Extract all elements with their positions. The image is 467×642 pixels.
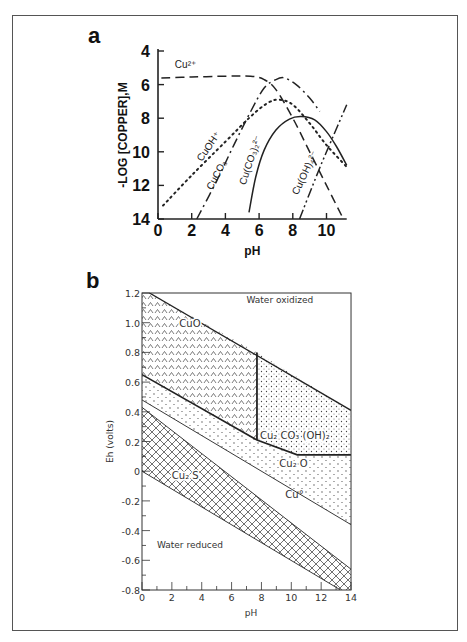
- y-tick-label: -0.8: [121, 585, 140, 596]
- y-tick-label: 0: [134, 466, 140, 477]
- y-tick-label: 0.6: [125, 377, 140, 388]
- region-label: Cu°: [285, 489, 303, 500]
- x-tick-label: 10: [285, 592, 297, 603]
- y-axis-label: Eh (volts): [105, 420, 115, 463]
- y-tick-label: 0.4: [125, 407, 140, 418]
- region-label: Cu₂ CO₃ (OH)₂: [260, 430, 330, 441]
- region-label: Water reduced: [157, 540, 223, 550]
- x-tick-label: 6: [229, 592, 235, 603]
- region-label: Cu₂ S: [172, 470, 199, 481]
- x-axis-label: pH: [245, 608, 257, 618]
- region-label: Cu₂ O: [279, 458, 308, 469]
- y-tick-label: 0.8: [125, 347, 140, 358]
- y-tick-label: -0.4: [121, 526, 140, 537]
- x-tick-label: 12: [315, 592, 327, 603]
- y-tick-label: 0.2: [125, 437, 140, 448]
- region-label: Water oxidized: [247, 295, 314, 305]
- region-label: CuO: [179, 318, 200, 329]
- y-tick-label: -0.2: [121, 496, 140, 507]
- chart-b-eh-ph-diagram: 1.21.00.80.60.40.20-0.2-0.4-0.6-0.802468…: [0, 0, 467, 642]
- y-tick-label: 1.0: [125, 318, 140, 329]
- x-tick-label: 8: [258, 592, 264, 603]
- x-tick-label: 14: [345, 592, 357, 603]
- y-tick-label: -0.6: [121, 555, 140, 566]
- x-tick-label: 0: [139, 592, 145, 603]
- y-tick-label: 1.2: [125, 288, 140, 299]
- x-tick-label: 2: [169, 592, 175, 603]
- x-tick-label: 4: [199, 592, 205, 603]
